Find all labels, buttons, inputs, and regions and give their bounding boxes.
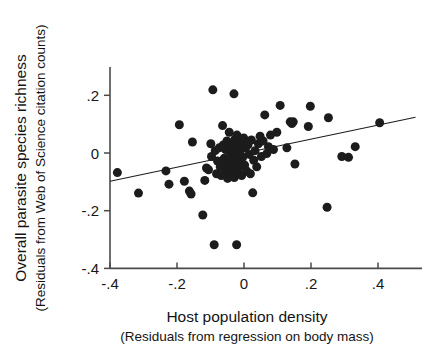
data-points [113, 85, 384, 249]
scatter-point [204, 165, 213, 174]
scatter-point [289, 117, 298, 126]
scatter-point [272, 128, 281, 137]
x-axis-title: Host population density [166, 308, 327, 325]
scatter-point [175, 120, 184, 129]
scatter-point [323, 203, 332, 212]
scatter-point [344, 153, 353, 162]
scatter-point [260, 110, 269, 119]
scatter-point [304, 122, 313, 131]
scatter-point [232, 240, 241, 249]
scatter-point [248, 188, 257, 197]
scatter-point [198, 211, 207, 220]
regression-line [110, 117, 416, 181]
scatter-point [208, 85, 217, 94]
fit-line [110, 117, 416, 181]
scatter-point [246, 169, 255, 178]
scatter-point [290, 159, 299, 168]
chart-figure: .20-.2-.4-.4-.20.2.4Host population dens… [0, 0, 436, 359]
y-tick-label: -.4 [81, 260, 99, 277]
scatter-point [229, 89, 238, 98]
y-axis-subtitle: (Residuals from Web of Science citation … [33, 24, 48, 311]
scatter-point [164, 180, 173, 189]
scatter-point [134, 189, 143, 198]
scatter-point [276, 101, 285, 110]
scatter-point [252, 162, 261, 171]
scatter-point [210, 240, 219, 249]
scatter-point [218, 121, 227, 130]
y-axis-title: Overall parasite species richness [12, 54, 29, 282]
y-tick-label: .2 [86, 87, 99, 104]
scatter-point [188, 138, 197, 147]
x-tick-label: .2 [305, 275, 318, 292]
y-tick-label: -.2 [81, 202, 99, 219]
scatter-point [180, 177, 189, 186]
scatter-plot: .20-.2-.4-.4-.20.2.4Host population dens… [0, 0, 436, 359]
x-tick-label: -.2 [168, 275, 186, 292]
scatter-point [200, 176, 209, 185]
scatter-point [113, 168, 122, 177]
scatter-point [161, 166, 170, 175]
scatter-point [225, 128, 234, 137]
x-tick-label: 0 [240, 275, 248, 292]
x-tick-label: -.4 [101, 275, 119, 292]
y-tick-label: 0 [91, 145, 99, 162]
scatter-point [187, 189, 196, 198]
axes [104, 67, 422, 268]
scatter-point [351, 142, 360, 151]
scatter-point [306, 102, 315, 111]
x-axis-subtitle: (Residuals from regression on body mass) [120, 329, 374, 344]
scatter-point [324, 113, 333, 122]
axis-labels: .20-.2-.4-.4-.20.2.4Host population dens… [12, 24, 384, 344]
x-tick-label: .4 [372, 275, 385, 292]
